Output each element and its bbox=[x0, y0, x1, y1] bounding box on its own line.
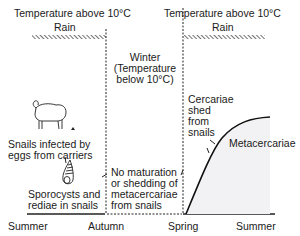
sheep-icon bbox=[33, 101, 66, 129]
rain-bar-left bbox=[32, 35, 106, 39]
egg-icon bbox=[71, 127, 75, 130]
winter-label: Winter (Temperature below 10°C) bbox=[110, 52, 180, 85]
season-summer-end: Summer bbox=[236, 221, 276, 232]
rain-label-left: Rain bbox=[54, 22, 76, 33]
season-spring: Spring bbox=[168, 221, 198, 232]
rain-label-right: Rain bbox=[212, 22, 234, 33]
season-summer-start: Summer bbox=[8, 221, 48, 232]
snail-shell-icon bbox=[63, 160, 73, 184]
temperature-label-left: Temperature above 10°C bbox=[14, 8, 131, 19]
no-maturation-label: No maturation or shedding of metacercari… bbox=[111, 167, 178, 211]
sporocysts-line2: rediae in snails bbox=[28, 200, 100, 211]
snails-infected-label: Snails infected by eggs from carriers bbox=[8, 139, 93, 161]
season-autumn: Autumn bbox=[88, 221, 124, 232]
winter-temperature-value: below 10°C) bbox=[110, 74, 180, 85]
pointer-cercariae bbox=[210, 140, 215, 144]
cercariae-label: Cercariae shed from snails bbox=[188, 94, 234, 138]
sporocysts-label: Sporocysts and rediae in snails bbox=[28, 189, 100, 211]
pointer-curve-lower bbox=[207, 148, 209, 153]
metacercariae-label: Metacercariae bbox=[229, 138, 296, 149]
no-maturation-line4: from snails bbox=[111, 200, 178, 211]
temperature-label-right: Temperature above 10°C bbox=[164, 8, 281, 19]
snails-infected-line2: eggs from carriers bbox=[8, 150, 93, 161]
rain-bar-right bbox=[184, 35, 265, 39]
cercariae-line4: snails bbox=[188, 127, 234, 138]
